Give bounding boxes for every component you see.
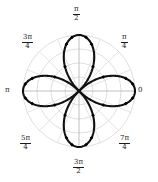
theta-label-pi-over-4: π 4 <box>121 34 128 50</box>
theta-label-5pi-over-4: 5π 4 <box>20 135 31 151</box>
polar-plot-canvas <box>0 0 158 182</box>
polar-plot-figure: 0 π 4 π 2 3π 4 π 5π 4 3π 2 <box>0 0 158 182</box>
theta-label-0: 0 <box>138 87 142 94</box>
theta-label-pi: π <box>5 87 10 94</box>
theta-label-pi-over-2: π 2 <box>73 6 80 22</box>
theta-label-3pi-over-4: 3π 4 <box>22 34 33 50</box>
theta-label-7pi-over-4: 7π 4 <box>119 135 130 151</box>
theta-label-3pi-over-2: 3π 2 <box>73 159 84 175</box>
